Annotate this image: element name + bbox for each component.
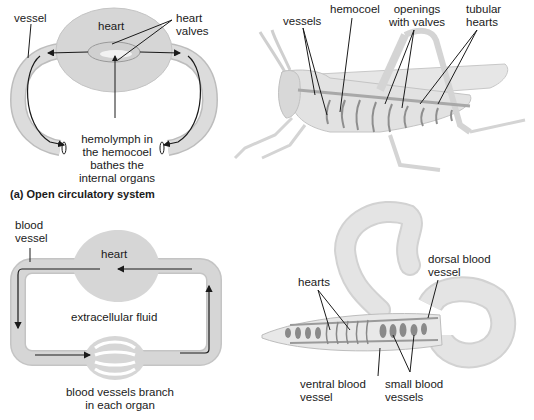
earthworm-illustration bbox=[262, 212, 503, 376]
label-hearts: hearts bbox=[298, 276, 330, 289]
label-blood-vessel: blood vessel bbox=[15, 219, 48, 245]
label-heart-open: heart bbox=[98, 20, 124, 33]
diagram-canvas bbox=[0, 0, 534, 420]
label-tubular-hearts: tubular hearts bbox=[466, 3, 501, 29]
label-hemolymph: hemolymph in the hemocoel bathes the int… bbox=[72, 133, 162, 185]
label-vessel: vessel bbox=[14, 12, 47, 25]
label-dorsal-blood-vessel: dorsal blood vessel bbox=[428, 253, 491, 279]
label-ventral-blood-vessel: ventral blood vessel bbox=[300, 378, 366, 404]
label-vessels: vessels bbox=[283, 15, 321, 28]
label-vessels-branch: blood vessels branch in each organ bbox=[60, 386, 180, 412]
grasshopper-illustration bbox=[235, 18, 525, 170]
label-openings-with-valves: openings with valves bbox=[382, 3, 452, 29]
label-small-blood-vessels: small blood vessels bbox=[385, 378, 443, 404]
caption-open-system: (a) Open circulatory system bbox=[10, 188, 155, 200]
label-hemocoel: hemocoel bbox=[330, 3, 380, 16]
label-extracellular-fluid: extracellular fluid bbox=[71, 311, 157, 324]
label-heart-valves: heart valves bbox=[176, 12, 209, 38]
label-heart-closed: heart bbox=[101, 248, 127, 261]
